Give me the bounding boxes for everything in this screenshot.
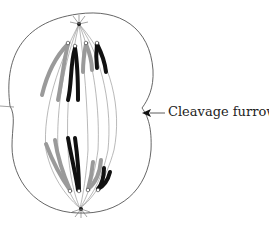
upper-chromosomes xyxy=(42,41,106,100)
lower-chromosomes xyxy=(46,138,110,193)
cleavage-furrow-label: Cleavage furrow xyxy=(168,104,269,119)
cell-membrane xyxy=(9,13,153,213)
cleavage-furrow-arrow xyxy=(142,109,165,117)
furrow-left xyxy=(0,106,14,107)
upper-pole xyxy=(70,15,88,26)
